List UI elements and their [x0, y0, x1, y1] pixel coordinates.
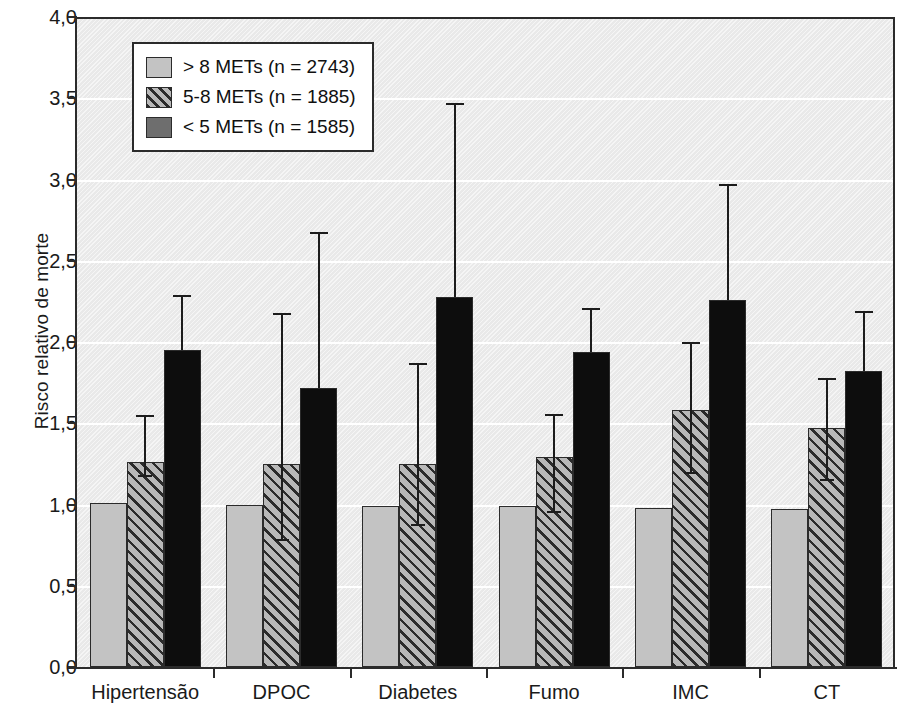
error-bar-stem	[727, 184, 729, 299]
x-tick-label: DPOC	[253, 681, 311, 704]
x-tick-mark	[622, 667, 624, 678]
x-tick-mark	[759, 667, 761, 678]
x-tick-label: IMC	[672, 681, 709, 704]
y-axis-ticks: 0,00,51,01,52,02,53,03,54,0	[0, 0, 77, 715]
error-bar-stem	[417, 363, 419, 524]
error-bar-stem	[863, 311, 865, 371]
x-tick-label: Diabetes	[378, 681, 457, 704]
error-bar-stem	[826, 378, 828, 479]
x-tick-label: Fumo	[529, 681, 580, 704]
bar	[164, 350, 201, 667]
error-bar-cap-lower	[138, 475, 152, 477]
error-bar-cap-upper	[582, 308, 600, 310]
x-tick-label: CT	[813, 681, 840, 704]
error-bar-stem	[454, 103, 456, 296]
x-tick-mark	[350, 667, 352, 678]
x-tick-label: Hipertensão	[91, 681, 199, 704]
bar	[635, 508, 672, 667]
gridline	[77, 261, 895, 263]
bar	[362, 506, 399, 667]
error-bar-cap-upper	[545, 414, 563, 416]
error-bar-cap-upper	[273, 313, 291, 315]
bar	[436, 297, 473, 668]
bar	[226, 505, 263, 668]
error-bar-cap-upper	[855, 311, 873, 313]
gridline	[77, 342, 895, 344]
error-bar-cap-upper	[446, 103, 464, 105]
error-bar-cap-lower	[684, 472, 698, 474]
error-bar-stem	[318, 232, 320, 388]
error-bar-stem	[553, 414, 555, 512]
legend-swatch-gt8mets-icon	[146, 57, 172, 78]
error-bar-stem	[590, 308, 592, 352]
error-bar-stem	[181, 295, 183, 350]
error-bar-stem	[281, 313, 283, 539]
legend-swatch-5to8mets-icon	[146, 87, 172, 108]
gridline	[77, 180, 895, 182]
error-bar-cap-lower	[411, 524, 425, 526]
error-bar-cap-lower	[547, 511, 561, 513]
x-axis-line	[68, 667, 897, 669]
bar	[300, 388, 337, 668]
error-bar-cap-upper	[682, 342, 700, 344]
error-bar-cap-upper	[173, 295, 191, 297]
x-tick-mark	[213, 667, 215, 678]
legend-label: 5-8 METs (n = 1885)	[183, 86, 356, 108]
x-tick-mark	[486, 667, 488, 678]
error-bar-cap-upper	[136, 415, 154, 417]
error-bar-cap-upper	[409, 363, 427, 365]
bar	[573, 352, 610, 667]
error-bar-stem	[690, 342, 692, 472]
bar	[127, 462, 164, 667]
bar	[771, 509, 808, 667]
error-bar-cap-upper	[310, 232, 328, 234]
error-bar-stem	[144, 415, 146, 475]
error-bar-cap-lower	[275, 539, 289, 541]
relative-risk-bar-chart: Risco relativo de morte 0,00,51,01,52,02…	[0, 0, 905, 715]
legend-item: < 5 METs (n = 1585)	[146, 112, 356, 142]
bar	[845, 371, 882, 667]
legend-label: > 8 METs (n = 2743)	[183, 56, 355, 78]
plot-border-top	[77, 17, 895, 19]
bar	[709, 300, 746, 667]
legend-swatch-lt5mets-icon	[146, 117, 172, 138]
error-bar-cap-upper	[719, 184, 737, 186]
bar	[499, 506, 536, 667]
plot-border-right	[893, 17, 895, 667]
chart-legend: > 8 METs (n = 2743) 5-8 METs (n = 1885) …	[132, 42, 374, 152]
legend-label: < 5 METs (n = 1585)	[183, 116, 355, 138]
legend-item: 5-8 METs (n = 1885)	[146, 82, 356, 112]
error-bar-cap-upper	[818, 378, 836, 380]
bar	[90, 503, 127, 667]
error-bar-cap-lower	[820, 479, 834, 481]
legend-item: > 8 METs (n = 2743)	[146, 52, 356, 82]
